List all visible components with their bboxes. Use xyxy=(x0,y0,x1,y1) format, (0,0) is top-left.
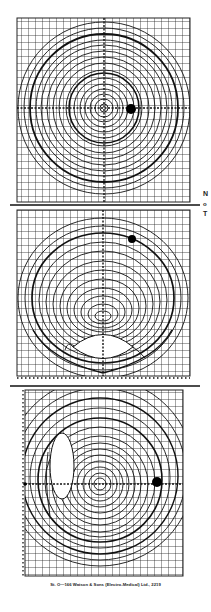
isodose-chart-sheet xyxy=(0,0,211,612)
isodose-chart-1 xyxy=(17,18,190,202)
source-dot-2 xyxy=(128,235,136,243)
origin-marker xyxy=(23,482,27,486)
side-label-n: N xyxy=(203,190,208,198)
side-label-t: T xyxy=(203,210,207,218)
source-dot-3 xyxy=(152,477,162,487)
side-label-o: o xyxy=(203,200,207,208)
isodose-chart-3 xyxy=(6,378,194,576)
isodose-chart-2 xyxy=(17,210,190,378)
source-dot-1 xyxy=(126,104,136,114)
footer-publisher: St. O—166 Watson & Sons (Electro-Medical… xyxy=(0,582,211,587)
